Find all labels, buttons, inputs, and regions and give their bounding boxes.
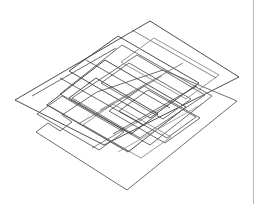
figure-root: Axonometric line drawing of several over…: [0, 0, 264, 204]
vertical-page-rule: [253, 0, 254, 204]
axonometric-drawing: [0, 0, 264, 204]
